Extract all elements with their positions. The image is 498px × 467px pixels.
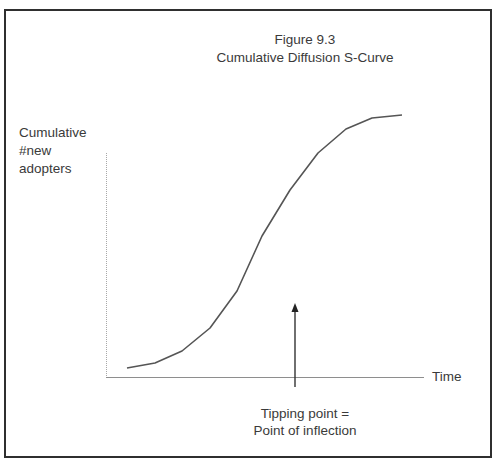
s-curve-line bbox=[127, 115, 402, 368]
tipping-point-annotation: Tipping point = Point of inflection bbox=[210, 405, 400, 439]
annotation-line-2: Point of inflection bbox=[210, 422, 400, 439]
s-curve-plot bbox=[0, 0, 498, 467]
x-axis-label: Time bbox=[432, 368, 462, 386]
arrow-up-icon bbox=[292, 303, 299, 312]
annotation-line-1: Tipping point = bbox=[210, 405, 400, 422]
